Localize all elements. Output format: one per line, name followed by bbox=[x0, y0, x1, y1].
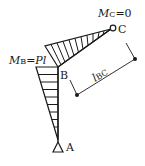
dimension-end-dot bbox=[75, 93, 79, 97]
label-mb: MB=Pl bbox=[8, 54, 47, 67]
label-mc: MC=0 bbox=[97, 7, 132, 20]
hinge-c-icon bbox=[110, 25, 116, 31]
dimension-end-dot bbox=[133, 57, 137, 61]
moment-area-ab bbox=[36, 67, 58, 140]
label-node-b: B bbox=[60, 69, 68, 82]
pin-support-a-icon bbox=[53, 142, 63, 152]
label-node-c: C bbox=[118, 23, 126, 36]
label-dimension-lbc: lBC bbox=[90, 65, 110, 84]
moment-area-bc bbox=[45, 29, 111, 67]
moment-diagram: MC=0 C MB=Pl B A lBC bbox=[0, 0, 145, 166]
label-node-a: A bbox=[65, 141, 75, 154]
